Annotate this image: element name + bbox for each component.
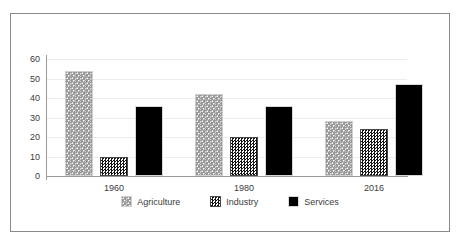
- gridline-60: [47, 59, 407, 60]
- bar-agriculture-2016: [325, 121, 353, 176]
- gridline-40: [47, 98, 407, 99]
- legend-swatch-agriculture-icon: [121, 196, 132, 207]
- y-tick-label-50: 50: [30, 74, 40, 84]
- legend-label-industry: Industry: [226, 197, 258, 207]
- x-tick-label-2016: 2016: [364, 183, 384, 193]
- y-axis-line: [46, 55, 47, 180]
- bar-services-2016: [395, 84, 423, 176]
- legend-swatch-services-icon: [288, 196, 299, 207]
- bar-agriculture-1980: [195, 94, 223, 176]
- chart-legend: Agriculture Industry Services: [11, 196, 449, 207]
- legend-item-industry: Industry: [210, 196, 258, 207]
- x-tick-label-1960: 1960: [104, 183, 124, 193]
- bar-industry-1960: [100, 157, 128, 177]
- gridline-20: [47, 137, 407, 138]
- chart-figure: 60 50 40 30 20 10 0 1960 1980 2016 Agric…: [10, 13, 450, 232]
- legend-swatch-industry-icon: [210, 196, 221, 207]
- bar-services-1980: [265, 106, 293, 176]
- bar-industry-1980: [230, 137, 258, 176]
- legend-item-services: Services: [288, 196, 339, 207]
- y-tick-label-30: 30: [30, 113, 40, 123]
- x-axis-line: [46, 176, 408, 177]
- bar-services-1960: [135, 106, 163, 176]
- gridline-50: [47, 79, 407, 80]
- y-tick-label-40: 40: [30, 93, 40, 103]
- y-tick-label-60: 60: [30, 54, 40, 64]
- y-tick-label-0: 0: [35, 171, 40, 181]
- bar-agriculture-1960: [65, 71, 93, 176]
- gridline-30: [47, 118, 407, 119]
- legend-item-agriculture: Agriculture: [121, 196, 180, 207]
- y-tick-label-10: 10: [30, 152, 40, 162]
- y-tick-label-20: 20: [30, 132, 40, 142]
- legend-label-services: Services: [304, 197, 339, 207]
- bar-industry-2016: [360, 129, 388, 176]
- plot-area: 60 50 40 30 20 10 0 1960 1980 2016: [47, 59, 407, 176]
- x-tick-label-1980: 1980: [234, 183, 254, 193]
- legend-label-agriculture: Agriculture: [137, 197, 180, 207]
